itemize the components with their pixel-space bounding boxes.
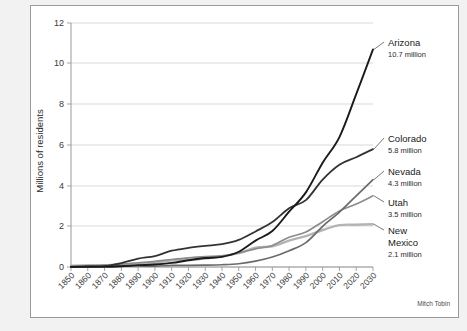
population-line-chart: Millions of residents 12 10 8 6 4 2 0 (31, 6, 458, 317)
svg-text:10: 10 (54, 58, 64, 68)
leader-line (374, 171, 384, 180)
series-label-nevada: Nevada (388, 166, 421, 177)
x-tick-label: 1900 (140, 270, 161, 291)
leader-line (374, 224, 384, 230)
x-tick-label: 1880 (106, 270, 127, 291)
series-label-new-mexico-2: Mexico (388, 237, 418, 248)
series-value-utah: 3.5 million (388, 210, 422, 219)
credit-text: Mitch Tobin (417, 300, 450, 307)
x-tick-label: 1860 (73, 270, 94, 291)
series-value-arizona: 10.7 million (388, 50, 426, 59)
series-labels: Arizona 10.7 million Colorado 5.8 millio… (388, 37, 427, 259)
leader-line (374, 138, 384, 149)
x-tick-label: 1870 (90, 270, 111, 291)
x-tick-label: 1910 (157, 270, 178, 291)
x-tick-label: 1980 (274, 270, 295, 291)
leader-line (374, 196, 384, 202)
x-tick-label: 1930 (190, 270, 211, 291)
label-leader-lines (374, 42, 384, 230)
x-tick-label: 1970 (257, 270, 278, 291)
svg-text:12: 12 (54, 18, 64, 28)
x-tickmarks (71, 267, 373, 271)
x-tick-label: 2030 (358, 270, 379, 291)
svg-text:6: 6 (59, 140, 64, 150)
x-tick-label: 1950 (224, 270, 245, 291)
x-tick-label: 2020 (341, 270, 362, 291)
series-value-new-mexico: 2.1 million (388, 250, 422, 259)
series-line-arizona (71, 49, 373, 266)
screenshot-background: Millions of residents 12 10 8 6 4 2 0 (0, 0, 467, 331)
svg-text:2: 2 (59, 221, 64, 231)
series-value-nevada: 4.3 million (388, 179, 422, 188)
leader-line (374, 42, 384, 49)
x-axis-ticks: 1850186018701880189019001910192019301940… (56, 270, 379, 291)
svg-text:4: 4 (59, 181, 64, 191)
x-tick-label: 2010 (324, 270, 345, 291)
gridlines (71, 23, 373, 267)
series-label-arizona: Arizona (388, 37, 421, 48)
x-tick-label: 1920 (173, 270, 194, 291)
y-tickmarks (67, 23, 71, 267)
x-tick-label: 1890 (123, 270, 144, 291)
x-tick-label: 1990 (291, 270, 312, 291)
chart-card: Millions of residents 12 10 8 6 4 2 0 (30, 5, 459, 318)
x-tick-label: 1960 (241, 270, 262, 291)
series-line-nevada (71, 180, 373, 267)
x-tick-label: 2000 (308, 270, 329, 291)
y-axis-title: Millions of residents (34, 109, 45, 193)
svg-text:8: 8 (59, 99, 64, 109)
series-label-colorado: Colorado (388, 133, 427, 144)
series-label-new-mexico-1: New (388, 225, 407, 236)
y-axis-ticks: 12 10 8 6 4 2 0 (54, 18, 64, 272)
series-line-colorado (71, 149, 373, 267)
x-tick-label: 1940 (207, 270, 228, 291)
svg-text:0: 0 (59, 262, 64, 272)
series-label-utah: Utah (388, 197, 408, 208)
series-group (71, 49, 373, 267)
x-tick-label: 1850 (56, 270, 77, 291)
series-value-colorado: 5.8 million (388, 146, 422, 155)
